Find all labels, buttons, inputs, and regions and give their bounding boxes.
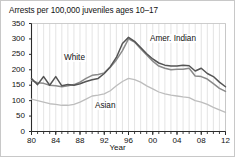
y-tick-label: 100 — [3, 96, 25, 105]
y-tick-label: 350 — [3, 19, 25, 28]
y-tick-label: 300 — [3, 34, 25, 43]
y-tick-label: 250 — [3, 49, 25, 58]
plot-area — [1, 1, 235, 157]
y-tick-label: 150 — [3, 80, 25, 89]
series-label-amer-indian: Amer. Indian — [149, 34, 197, 43]
series-label-white: White — [63, 53, 86, 62]
y-tick-label: 200 — [3, 65, 25, 74]
chart-figure: Arrests per 100,000 juveniles ages 10–17… — [0, 0, 235, 157]
x-axis-title: Year — [1, 143, 234, 152]
y-tick-label: 50 — [3, 111, 25, 120]
y-tick-label: 0 — [3, 127, 25, 136]
series-label-asian: Asian — [94, 101, 116, 110]
